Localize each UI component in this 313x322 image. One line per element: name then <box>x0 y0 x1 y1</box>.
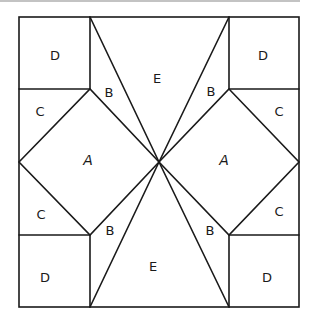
piece-label-a-left: A <box>82 152 93 168</box>
piece-label-a-right: A <box>218 152 229 168</box>
piece-labels: DDDDCCCCBBBBEEAA <box>35 48 283 285</box>
piece-label-b-top-right: B <box>207 84 216 99</box>
line-top-right-ray <box>159 17 229 162</box>
piece-label-e-bottom: E <box>149 259 157 274</box>
line-bottom-left-ray <box>90 162 159 307</box>
line-top-left-ray <box>90 17 159 162</box>
d-bottom-left-edge <box>19 235 90 307</box>
piece-label-e-top: E <box>153 71 161 86</box>
piece-label-c-top-left: C <box>35 104 44 119</box>
piece-label-c-mid-right: C <box>274 204 283 219</box>
piece-label-b-bottom-right: B <box>206 223 215 238</box>
piece-label-c-mid-left: C <box>36 207 45 222</box>
piece-label-d-top-right: D <box>258 48 268 63</box>
piece-label-b-top-left: B <box>105 85 114 100</box>
quilt-block-diagram: DDDDCCCCBBBBEEAA <box>0 0 313 322</box>
piece-label-c-top-right: C <box>274 104 283 119</box>
line-bottom-right-ray <box>159 162 229 307</box>
piece-label-d-bottom-right: D <box>262 270 272 285</box>
piece-label-d-bottom-left: D <box>40 270 50 285</box>
piece-label-d-top-left: D <box>50 48 60 63</box>
piece-label-b-bottom-left: B <box>106 223 115 238</box>
